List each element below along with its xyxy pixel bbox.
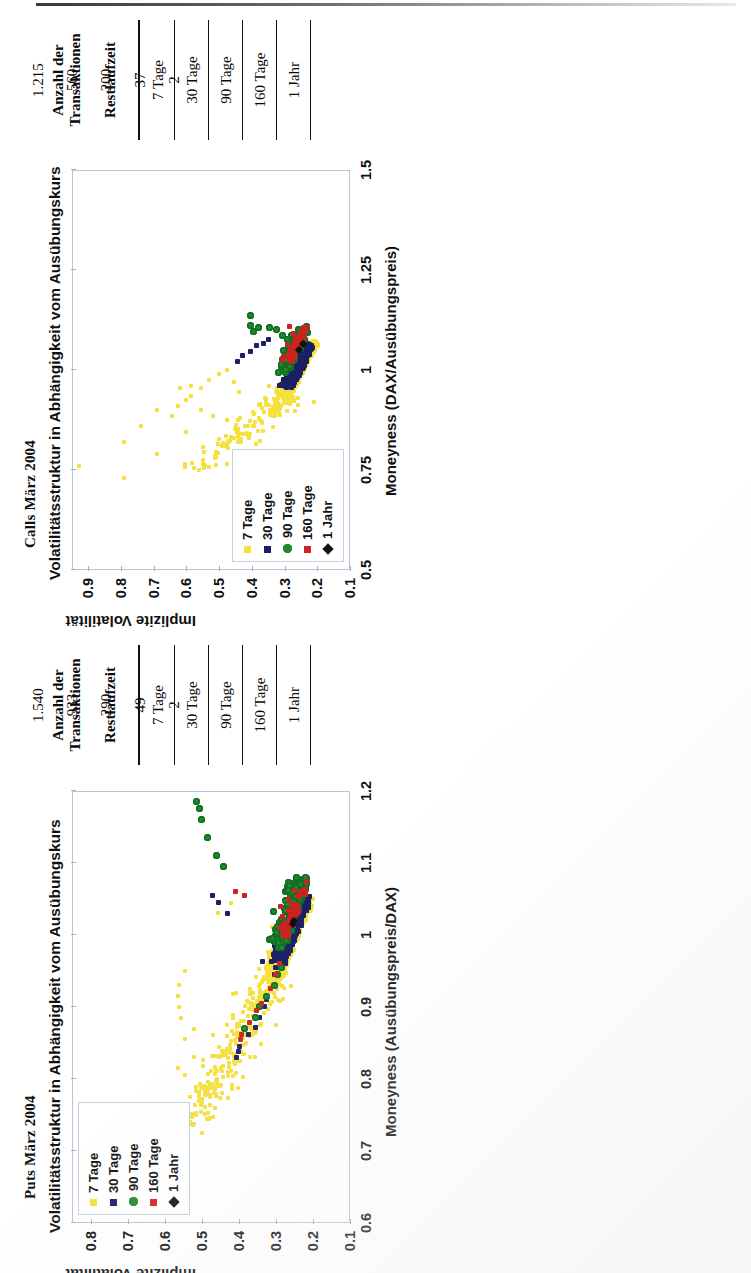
scatter-point (271, 425, 275, 429)
legend-item-1-jahr[interactable]: 1 Jahr (320, 501, 335, 553)
legend-item-160-tage[interactable]: 160 Tage (300, 485, 315, 553)
scatter-point (122, 476, 126, 480)
y-tick (186, 566, 187, 571)
scatter-point (282, 986, 286, 990)
scatter-point (289, 902, 294, 907)
legend-item-1-jahr[interactable]: 1 Jahr (166, 1154, 181, 1206)
scatter-point (225, 911, 230, 916)
scatter-point (306, 904, 311, 909)
scatter-point (242, 1043, 246, 1047)
scatter-point (284, 383, 289, 388)
scatter-point (236, 418, 240, 422)
scatter-point (275, 939, 282, 946)
scatter-point (236, 1086, 240, 1090)
scatter-point (192, 466, 196, 470)
scatter-point (286, 897, 291, 902)
x-tick (71, 1222, 76, 1223)
legend-item-30-tage[interactable]: 30 Tage (106, 1146, 121, 1206)
legend-item-30-tage[interactable]: 30 Tage (260, 493, 275, 553)
scatter-point (228, 1050, 232, 1054)
scatter-point (243, 424, 247, 428)
legend-item-7-tage[interactable]: 7 Tage (86, 1153, 101, 1206)
y-tick-label: 0.6 (178, 578, 194, 598)
scatter-point (289, 358, 294, 363)
scatter-point (312, 400, 316, 404)
y-tick-label: 0.9 (80, 578, 96, 598)
table-cell-anzahl: 1.215 (30, 20, 47, 140)
scatter-point (77, 464, 81, 468)
scatter-point (292, 888, 297, 893)
y-tick (88, 566, 89, 571)
scatter-point (242, 893, 247, 898)
scatter-point (302, 326, 307, 331)
legend-item-90-tage[interactable]: 90 Tage (280, 491, 295, 553)
legend-marker-icon (110, 1199, 117, 1206)
calls-x-axis-title: Moneyness (DAX/Ausübungspreis) (382, 246, 399, 496)
scatter-point (262, 410, 266, 414)
scatter-point (217, 1045, 221, 1049)
x-tick-label: 1 (358, 931, 374, 939)
legend-marker-icon (150, 1199, 157, 1206)
scatter-point (200, 1131, 204, 1135)
scatter-point (277, 411, 281, 415)
scatter-point (241, 1075, 245, 1079)
scatter-point (194, 1111, 198, 1115)
y-tick (276, 1219, 277, 1224)
scatter-point (254, 344, 259, 349)
y-tick (154, 566, 155, 571)
y-tick-label: 0.8 (83, 1231, 99, 1251)
legend-marker-icon (264, 546, 271, 553)
scatter-point (241, 1010, 245, 1014)
x-tick (71, 1078, 76, 1079)
x-tick-label: 1.25 (358, 256, 374, 284)
y-tick-label: 0.1 (342, 1231, 358, 1251)
puts-transactions-table: RestlaufzeitAnzahl der Transaktionen7 Ta… (50, 645, 350, 765)
x-tick (71, 369, 76, 370)
table-cell-anzahl: 200 (98, 20, 115, 140)
scatter-point (253, 1055, 257, 1059)
scatter-point (261, 342, 266, 347)
y-tick-label: 0.2 (305, 1231, 321, 1251)
legend-item-90-tage[interactable]: 90 Tage (126, 1144, 141, 1206)
table-cell-restlaufzeit: 90 Tage (218, 20, 235, 140)
scatter-point (251, 410, 255, 414)
scatter-point (183, 969, 187, 973)
scatter-point (197, 1094, 201, 1098)
scatter-point (242, 1052, 246, 1056)
calls-legend: 7 Tage30 Tage90 Tage160 Tage1 Jahr (232, 449, 344, 562)
scatter-point (215, 1069, 219, 1073)
scatter-point (291, 331, 296, 336)
x-tick (71, 569, 76, 570)
scatter-point (190, 461, 194, 465)
scatter-point (213, 454, 217, 458)
table-cell-anzahl: 933 (64, 645, 81, 765)
scatter-point (274, 1023, 278, 1027)
legend-item-7-tage[interactable]: 7 Tage (240, 500, 255, 553)
scatter-point (231, 1016, 235, 1020)
scatter-point (201, 458, 205, 462)
scatter-point (139, 424, 143, 428)
table-cell-anzahl: 290 (98, 645, 115, 765)
y-tick (121, 566, 122, 571)
x-tick (71, 269, 76, 270)
table-cell-restlaufzeit: 1 Jahr (286, 645, 303, 765)
scatter-point (202, 450, 206, 454)
scatter-point (211, 1086, 215, 1090)
scatter-point (207, 378, 211, 382)
scatter-point (246, 1014, 250, 1018)
scatter-point (268, 987, 273, 992)
scatter-point (234, 1055, 239, 1060)
y-tick-label: 0.6 (157, 1231, 173, 1251)
scatter-point (278, 904, 283, 909)
scatter-point (176, 994, 180, 998)
scatter-point (292, 934, 297, 939)
scatter-point (211, 1033, 215, 1037)
scatter-point (122, 440, 126, 444)
scatter-point (226, 1074, 230, 1078)
table-rule (310, 645, 311, 765)
legend-item-160-tage[interactable]: 160 Tage (146, 1138, 161, 1206)
scatter-point (217, 372, 221, 376)
scatter-point (193, 1103, 197, 1107)
scatter-point (253, 1025, 258, 1030)
y-tick (317, 566, 318, 571)
